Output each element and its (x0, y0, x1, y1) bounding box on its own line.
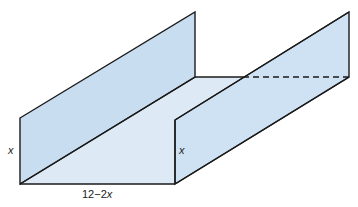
left-height-label: x (8, 144, 14, 156)
base-width-prefix: 12−2 (82, 188, 107, 200)
base-width-var: x (107, 188, 113, 200)
gutter-diagram (0, 0, 358, 207)
right-height-label: x (179, 144, 185, 156)
base-width-label: 12−2x (82, 188, 112, 200)
